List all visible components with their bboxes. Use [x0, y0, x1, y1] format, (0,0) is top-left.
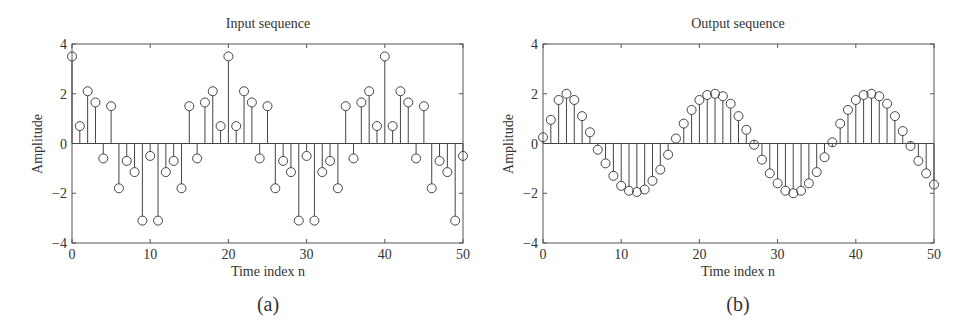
open-circle-marker — [216, 122, 225, 131]
stem-point — [349, 144, 358, 163]
open-circle-marker — [263, 102, 272, 111]
stem-point — [562, 89, 571, 143]
y-tick-label: 4 — [531, 37, 538, 52]
open-circle-marker — [648, 176, 657, 185]
open-circle-marker — [640, 185, 649, 194]
x-tick-label: 30 — [771, 247, 785, 262]
open-circle-marker — [726, 99, 735, 108]
stem-point — [388, 122, 397, 144]
stem-point — [742, 125, 751, 143]
stem-point — [656, 144, 665, 175]
open-circle-marker — [271, 184, 280, 193]
stem-point — [232, 122, 241, 144]
stem-point — [734, 112, 743, 144]
panel-b-caption: (b) — [726, 293, 749, 316]
open-circle-marker — [773, 179, 782, 188]
open-circle-marker — [742, 125, 751, 134]
open-circle-marker — [695, 95, 704, 104]
open-circle-marker — [404, 98, 413, 107]
open-circle-marker — [922, 169, 931, 178]
stem-point — [718, 92, 727, 144]
open-circle-marker — [107, 102, 116, 111]
open-circle-marker — [435, 156, 444, 165]
stem-point — [836, 119, 845, 143]
open-circle-marker — [914, 156, 923, 165]
y-tick-label: 2 — [60, 87, 67, 102]
open-circle-marker — [836, 119, 845, 128]
y-tick-label: 0 — [531, 137, 538, 152]
y-tick-label: 2 — [531, 87, 538, 102]
open-circle-marker — [193, 154, 202, 163]
open-circle-marker — [554, 95, 563, 104]
open-circle-marker — [890, 112, 899, 121]
stem-point — [570, 95, 579, 143]
open-circle-marker — [546, 115, 555, 124]
stem-point — [883, 99, 892, 143]
open-circle-marker — [718, 92, 727, 101]
stem-point — [703, 90, 712, 143]
open-circle-marker — [224, 52, 233, 61]
open-circle-marker — [427, 184, 436, 193]
figure: Input sequence 01020304050−4−2024 Amplit… — [0, 0, 963, 334]
open-circle-marker — [169, 156, 178, 165]
open-circle-marker — [91, 98, 100, 107]
stem-point — [804, 144, 813, 188]
open-circle-marker — [656, 165, 665, 174]
open-circle-marker — [341, 102, 350, 111]
stem-point — [380, 52, 389, 144]
stem-point — [107, 102, 116, 144]
stem-point — [122, 144, 131, 166]
open-circle-marker — [349, 154, 358, 163]
open-circle-marker — [83, 87, 92, 96]
open-circle-marker — [797, 186, 806, 195]
y-tick-label: 0 — [60, 137, 67, 152]
panel-a-ylabel: Amplitude — [30, 114, 45, 174]
open-circle-marker — [451, 216, 460, 225]
open-circle-marker — [357, 98, 366, 107]
stem-point — [617, 144, 626, 191]
open-circle-marker — [114, 184, 123, 193]
panel-b-xlabel: Time index n — [701, 264, 775, 279]
stem-point — [271, 144, 280, 193]
open-circle-marker — [302, 151, 311, 160]
stem-point — [224, 52, 233, 144]
open-circle-marker — [208, 87, 217, 96]
open-circle-marker — [372, 122, 381, 131]
stem-point — [75, 122, 84, 144]
panel-b-ticks: 01020304050−4−2024 — [523, 37, 941, 262]
open-circle-marker — [812, 168, 821, 177]
x-tick-label: 30 — [300, 247, 314, 262]
open-circle-marker — [200, 98, 209, 107]
open-circle-marker — [146, 151, 155, 160]
open-circle-marker — [883, 99, 892, 108]
open-circle-marker — [585, 128, 594, 137]
stem-point — [435, 144, 444, 166]
stem-point — [812, 144, 821, 177]
open-circle-marker — [412, 154, 421, 163]
stem-point — [419, 102, 428, 144]
stem-point — [773, 144, 782, 188]
panel-a-stems — [68, 52, 468, 225]
stem-point — [671, 134, 680, 143]
stem-point — [695, 95, 704, 143]
stem-point — [781, 144, 790, 196]
x-tick-label: 50 — [927, 247, 941, 262]
stem-point — [585, 128, 594, 144]
stem-point — [750, 140, 759, 149]
open-circle-marker — [679, 119, 688, 128]
stem-point — [255, 144, 264, 163]
open-circle-marker — [294, 216, 303, 225]
open-circle-marker — [875, 92, 884, 101]
stem-point — [664, 144, 673, 160]
open-circle-marker — [247, 98, 256, 107]
panel-b-title: Output sequence — [691, 16, 785, 31]
stem-point — [640, 144, 649, 195]
stem-point — [114, 144, 123, 193]
x-tick-label: 10 — [614, 247, 628, 262]
stem-point — [91, 98, 100, 144]
stem-point — [200, 98, 209, 144]
open-circle-marker — [365, 87, 374, 96]
open-circle-marker — [578, 112, 587, 121]
stem-point — [757, 144, 766, 165]
stem-point — [625, 144, 634, 196]
